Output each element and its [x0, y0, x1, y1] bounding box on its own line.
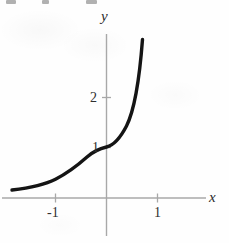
x-tick-label-minus-one: -1	[47, 206, 59, 220]
x-tick-label-plus-one: 1	[154, 206, 161, 220]
y-axis-label: y	[101, 9, 108, 24]
exponential-curve	[12, 40, 143, 191]
exponential-function-figure: y x -1 1 1 2	[0, 0, 229, 243]
plot-canvas	[0, 0, 229, 243]
x-axis-label: x	[209, 190, 216, 205]
y-tick-label-one: 1	[92, 141, 99, 155]
y-tick-label-two: 2	[90, 91, 97, 105]
